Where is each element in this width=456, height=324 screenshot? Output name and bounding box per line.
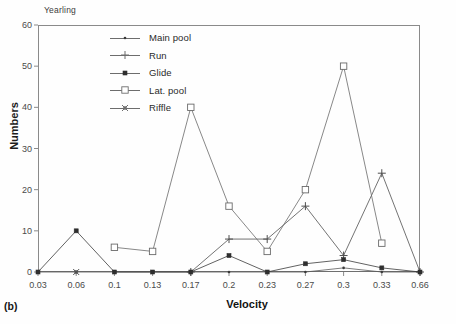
data-point-marker (303, 262, 307, 266)
legend-label: Glide (140, 67, 172, 78)
data-point-marker (151, 270, 155, 274)
data-point-marker (189, 270, 193, 274)
data-point-marker (342, 267, 345, 270)
data-series-run (187, 169, 424, 276)
data-point-marker (74, 229, 78, 233)
data-point-marker (149, 248, 155, 254)
data-point-marker (123, 71, 127, 75)
data-point-marker (264, 248, 270, 254)
legend-marker-x-cross-icon (110, 102, 140, 114)
data-point-marker (378, 169, 386, 177)
data-point-marker (342, 258, 346, 262)
data-point-marker (418, 270, 422, 274)
data-point-marker (111, 244, 117, 250)
data-point-marker (381, 271, 384, 274)
data-point-marker (304, 271, 307, 274)
legend-item-main-pool[interactable]: Main pool (110, 29, 250, 47)
data-point-marker (226, 203, 232, 209)
chart-screenshot: Yearling 0102030405060 Numbers 0.030.060… (0, 0, 456, 324)
legend-marker-open-square-icon (110, 84, 140, 96)
data-point-marker (340, 63, 346, 69)
data-point-marker (122, 105, 128, 111)
legend-item-lat-pool[interactable]: Lat. pool (110, 82, 250, 100)
data-point-marker (228, 271, 231, 274)
legend-label: Lat. pool (140, 85, 186, 96)
legend-marker-filled-square-icon (110, 67, 140, 79)
legend-item-glide[interactable]: Glide (110, 64, 250, 82)
data-point-marker (36, 270, 40, 274)
legend-label: Main pool (140, 32, 191, 43)
data-point-marker (302, 186, 308, 192)
legend-marker-dot-icon (110, 32, 140, 44)
legend-marker-plus-icon (110, 49, 140, 61)
data-point-marker (379, 240, 385, 246)
data-series-main-pool (37, 267, 422, 274)
data-point-marker (124, 36, 127, 39)
data-point-marker (112, 270, 116, 274)
legend-item-riffle[interactable]: Riffle (110, 99, 250, 117)
data-point-marker (121, 51, 129, 59)
data-point-marker (265, 270, 269, 274)
legend-label: Run (140, 50, 167, 61)
data-point-marker (122, 87, 128, 93)
chart-legend: Main poolRunGlideLat. poolRiffle (110, 29, 250, 117)
data-point-marker (380, 266, 384, 270)
legend-label: Riffle (140, 102, 171, 113)
data-point-marker (227, 254, 231, 258)
legend-item-run[interactable]: Run (110, 47, 250, 65)
